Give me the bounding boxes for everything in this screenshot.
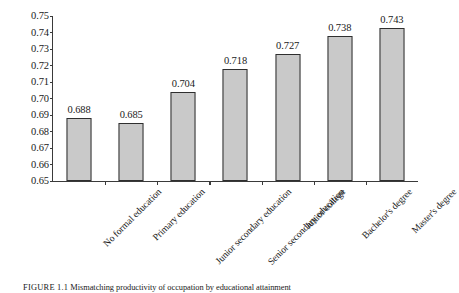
- x-axis-label: Junior college: [303, 186, 349, 232]
- bar: [327, 36, 352, 181]
- bar-value-label: 0.743: [380, 14, 403, 26]
- bar-group: 0.738: [314, 16, 366, 181]
- figure-caption-tag: FIGURE 1.1: [23, 283, 68, 292]
- y-tick-label: 0.75: [31, 9, 49, 23]
- x-axis-label-text: Bachelor's degree: [359, 186, 414, 241]
- bar-group: 0.718: [209, 16, 261, 181]
- bar-value-label: 0.727: [276, 40, 299, 52]
- x-tick-mark: [366, 181, 367, 185]
- y-tick-label: 0.73: [31, 42, 49, 56]
- x-axis-label-text: Junior college: [303, 186, 349, 232]
- bar: [275, 54, 300, 181]
- y-tick-label: 0.65: [31, 174, 49, 188]
- x-tick-mark: [157, 181, 158, 185]
- x-tick-mark: [209, 181, 210, 185]
- y-tick-label: 0.67: [31, 141, 49, 155]
- bar: [223, 69, 248, 181]
- y-tick-label: 0.72: [31, 59, 49, 73]
- bar-group: 0.727: [262, 16, 314, 181]
- bar-value-label: 0.704: [172, 78, 195, 90]
- x-tick-mark: [314, 181, 315, 185]
- bar-value-label: 0.688: [67, 104, 90, 116]
- x-tick-mark: [105, 181, 106, 185]
- bar-group: 0.685: [105, 16, 157, 181]
- bar-group: 0.743: [366, 16, 418, 181]
- x-axis-label: Bachelor's degree: [359, 186, 414, 241]
- figure-caption-text: Mismatching productivity of occupation b…: [70, 283, 291, 292]
- x-tick-mark: [262, 181, 263, 185]
- bar-value-label: 0.685: [120, 109, 143, 121]
- bar-group: 0.704: [157, 16, 209, 181]
- x-axis-label: Master's degree: [409, 186, 459, 236]
- bar: [379, 28, 404, 181]
- bar-value-label: 0.718: [224, 55, 247, 67]
- bar-series: 0.6880.6850.7040.7180.7270.7380.743: [53, 16, 418, 181]
- y-tick-label: 0.74: [31, 26, 49, 40]
- y-tick-label: 0.68: [31, 125, 49, 139]
- bar-group: 0.688: [53, 16, 105, 181]
- x-axis-label-text: Master's degree: [409, 186, 459, 236]
- bar-value-label: 0.738: [328, 22, 351, 34]
- bar: [67, 118, 92, 181]
- y-tick-label: 0.70: [31, 92, 49, 106]
- bar: [171, 92, 196, 181]
- chart-plot-area: 0.75 0.74 0.73 0.72 0.71 0.70 0.69 0.68: [52, 16, 418, 182]
- figure-caption: FIGURE 1.1 Mismatching productivity of o…: [23, 283, 433, 293]
- bar: [119, 123, 144, 181]
- y-tick-label: 0.66: [31, 158, 49, 172]
- y-tick-label: 0.71: [31, 75, 49, 89]
- y-tick-label: 0.69: [31, 108, 49, 122]
